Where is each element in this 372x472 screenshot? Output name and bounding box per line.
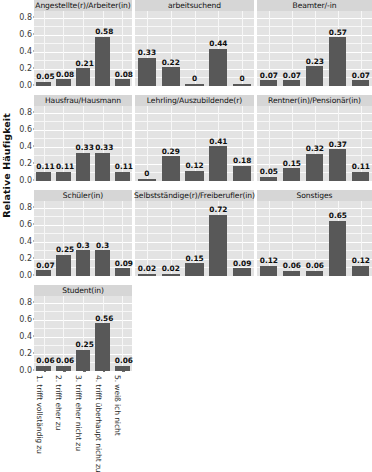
plot-area: 0.070.250.30.30.09 bbox=[34, 201, 132, 276]
bar-value-label: 0.07 bbox=[260, 71, 277, 80]
panel-title: Angestellte(r)/Arbeiter(in) bbox=[35, 1, 130, 10]
bar bbox=[95, 153, 110, 181]
facet-row: 0.00.20.40.60.8Hausfrau/Hausmann0.110.11… bbox=[13, 95, 372, 190]
bar bbox=[115, 79, 130, 86]
bar-value-label: 0.11 bbox=[115, 162, 130, 171]
bar-value-label: 0.29 bbox=[162, 147, 180, 156]
panel-title: Beamter/-in bbox=[293, 1, 337, 10]
panel-strip-label: Lehrling/Auszubildende(r) bbox=[135, 95, 254, 106]
gridline-major bbox=[257, 86, 372, 87]
bar-value-label: 0.12 bbox=[260, 256, 277, 265]
bar bbox=[260, 177, 277, 181]
bar-value-label: 0 bbox=[138, 169, 156, 178]
facet-panel: Lehrling/Auszubildende(r)00.290.120.410.… bbox=[135, 95, 254, 190]
y-axis-tick-label: 0.2 bbox=[19, 348, 32, 357]
bar-value-label: 0.11 bbox=[36, 162, 51, 171]
bar bbox=[115, 268, 130, 276]
bar-value-label: 0.58 bbox=[95, 27, 110, 36]
panel-title: Student(in) bbox=[62, 286, 104, 295]
bar bbox=[76, 250, 91, 276]
bar bbox=[36, 270, 51, 276]
bar-value-label: 0.33 bbox=[138, 48, 156, 57]
facet-panel: Rentner(in)/Pensionär(in)0.050.150.320.3… bbox=[257, 95, 372, 190]
bar-value-label: 0.02 bbox=[162, 264, 180, 273]
bar-value-label: 0.06 bbox=[56, 356, 71, 365]
bar bbox=[352, 80, 369, 86]
y-axis-tick-label: 0.8 bbox=[19, 297, 32, 306]
bar bbox=[162, 67, 180, 86]
y-axis-tick-label: 0.8 bbox=[19, 12, 32, 21]
facet-panel: Beamter/-in0.070.070.230.570.07 bbox=[257, 0, 372, 95]
facet-panel: Sonstiges0.120.060.060.650.12 bbox=[257, 190, 372, 285]
panel-title: Schüler(in) bbox=[63, 191, 103, 200]
y-axis-tick-label: 0.4 bbox=[19, 331, 32, 340]
facet-row: 0.00.20.40.60.8Schüler(in)0.070.250.30.3… bbox=[13, 190, 372, 285]
panel-title: Hausfrau/Hausmann bbox=[45, 96, 121, 105]
bar bbox=[209, 215, 227, 276]
bar bbox=[76, 350, 91, 371]
panel: Sonstiges0.120.060.060.650.12 bbox=[257, 190, 372, 285]
panel-strip-label: Hausfrau/Hausmann bbox=[34, 95, 132, 106]
bar bbox=[95, 37, 110, 86]
y-axis: 0.00.20.40.60.8 bbox=[13, 200, 34, 276]
facet-panel: arbeitsuchend0.330.2200.440 bbox=[135, 0, 254, 95]
bar bbox=[95, 250, 110, 276]
panel-title: Selbstständige(r)/Freiberufler(in) bbox=[134, 191, 255, 200]
panel-title: Lehrling/Auszubildende(r) bbox=[147, 96, 242, 105]
bar-value-label: 0.57 bbox=[329, 28, 346, 37]
gridline-major bbox=[257, 276, 372, 277]
bar-value-label: 0.11 bbox=[352, 162, 369, 171]
panel-strip-label: Selbstständige(r)/Freiberufler(in) bbox=[135, 190, 254, 201]
bar-value-label: 0.22 bbox=[162, 58, 180, 67]
bar bbox=[352, 172, 369, 181]
gridline-major bbox=[34, 181, 132, 182]
panel: Student(in)0.060.060.250.560.06 bbox=[34, 285, 132, 380]
bar-value-label: 0.3 bbox=[76, 241, 91, 250]
bar bbox=[209, 49, 227, 87]
bar bbox=[115, 172, 130, 181]
panel: Rentner(in)/Pensionär(in)0.050.150.320.3… bbox=[257, 95, 372, 190]
bar bbox=[283, 80, 300, 86]
y-axis-tick-label: 0.6 bbox=[19, 219, 32, 228]
plot-area: 0.120.060.060.650.12 bbox=[257, 201, 372, 276]
x-axis-tick-label: 4. trifft überhaupt nicht zu bbox=[94, 375, 103, 472]
x-axis-tick-label: 2. trifft eher zu bbox=[54, 375, 63, 430]
plot-area: 00.290.120.410.18 bbox=[135, 106, 254, 181]
bar-value-label: 0.05 bbox=[260, 167, 277, 176]
y-axis-tick-label: 0.0 bbox=[19, 271, 32, 280]
facet-panel: 0.00.20.40.60.8Angestellte(r)/Arbeiter(i… bbox=[13, 0, 132, 95]
panel-strip-label: Sonstiges bbox=[257, 190, 372, 201]
y-axis-tick-label: 0.0 bbox=[19, 81, 32, 90]
facet-row: 0.00.20.40.60.8Student(in)0.060.060.250.… bbox=[13, 285, 372, 380]
bar bbox=[260, 266, 277, 276]
bar-value-label: 0.15 bbox=[185, 254, 203, 263]
panel-strip-label: Student(in) bbox=[34, 285, 132, 296]
bar-value-label: 0.18 bbox=[233, 156, 251, 165]
chart-figure: Relative Häufigkeit 0.00.20.40.60.8Anges… bbox=[0, 0, 372, 472]
y-axis-tick-label: 0.0 bbox=[19, 366, 32, 375]
plot-area: 0.020.020.150.720.09 bbox=[135, 201, 254, 276]
bar bbox=[76, 153, 91, 181]
y-axis-tick-label: 0.4 bbox=[19, 236, 32, 245]
facet-panel: 0.00.20.40.60.8Schüler(in)0.070.250.30.3… bbox=[13, 190, 132, 285]
panel-strip-label: Angestellte(r)/Arbeiter(in) bbox=[34, 0, 132, 11]
bar-value-label: 0.32 bbox=[306, 144, 323, 153]
bar bbox=[162, 156, 180, 181]
panel-title: arbeitsuchend bbox=[168, 1, 221, 10]
y-axis-tick-label: 0.4 bbox=[19, 46, 32, 55]
bar bbox=[233, 268, 251, 276]
bar bbox=[209, 146, 227, 181]
y-axis-tick-label: 0.0 bbox=[19, 176, 32, 185]
bar bbox=[185, 171, 203, 181]
bar-value-label: 0.44 bbox=[209, 39, 227, 48]
bar-value-label: 0.05 bbox=[36, 72, 51, 81]
plot-area: 0.070.070.230.570.07 bbox=[257, 11, 372, 86]
bar-value-label: 0.06 bbox=[306, 261, 323, 270]
y-axis-tick-label: 0.2 bbox=[19, 253, 32, 262]
bar-value-label: 0.33 bbox=[76, 143, 91, 152]
plot-area: 0.050.150.320.370.11 bbox=[257, 106, 372, 181]
bar bbox=[138, 179, 156, 182]
y-axis: 0.00.20.40.60.8 bbox=[13, 10, 34, 86]
y-axis: 0.00.20.40.60.8 bbox=[13, 295, 34, 371]
bar-value-label: 0.23 bbox=[306, 57, 323, 66]
